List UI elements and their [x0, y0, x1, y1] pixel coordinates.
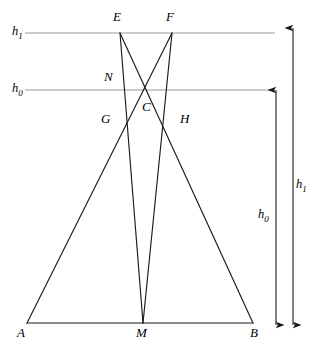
vertex-label-G: G [101, 112, 110, 125]
segment-F-to-M [143, 33, 172, 323]
vertex-label-F: F [166, 10, 174, 23]
vertex-label-N: N [104, 70, 113, 83]
axis-label-h0: h0 [12, 82, 23, 98]
vertex-label-H: H [180, 112, 189, 125]
geometry-diagram [0, 0, 318, 355]
vertex-label-M: M [136, 326, 147, 339]
guide-lines [25, 33, 275, 90]
vertex-label-E: E [113, 10, 121, 23]
dimension-label-h1: h1 [296, 178, 307, 194]
axis-label-h1: h1 [12, 25, 23, 41]
vertex-label-A: A [17, 326, 25, 339]
segment-A-to-F [27, 33, 172, 323]
dimension-arrows [276, 28, 293, 325]
vertex-label-C: C [142, 100, 151, 113]
vertex-label-B: B [250, 326, 258, 339]
construction-segments [27, 33, 253, 323]
dimension-label-h0: h0 [258, 208, 269, 224]
